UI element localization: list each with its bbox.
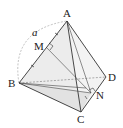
vertex-label-c: C [77, 114, 84, 125]
vertex-label-a: A [63, 8, 71, 19]
point-label-n: N [96, 90, 104, 101]
edge-length-label: a [32, 27, 38, 38]
vertex-label-b: B [8, 78, 15, 89]
tetrahedron-diagram [0, 0, 123, 128]
point-label-m: M [34, 41, 44, 52]
vertex-label-d: D [108, 72, 116, 83]
